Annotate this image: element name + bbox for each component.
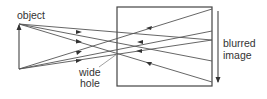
ray-bottom-3 <box>19 31 212 69</box>
blurred-image-label-line1: blurred <box>223 37 256 49</box>
blurred-image-label-line2: image <box>223 49 252 61</box>
ray-bottom-1 <box>19 9 212 69</box>
ray-bottom-2 <box>19 40 212 69</box>
ray-arrowhead <box>136 49 142 53</box>
object-label: object <box>17 9 45 21</box>
wide-hole-label-line2: hole <box>80 77 100 89</box>
ray-top-1 <box>19 24 212 40</box>
ray-top-3 <box>19 24 212 82</box>
ray-arrowhead <box>137 40 143 44</box>
ray-arrowhead <box>76 30 82 34</box>
ray-arrowhead <box>76 51 82 55</box>
